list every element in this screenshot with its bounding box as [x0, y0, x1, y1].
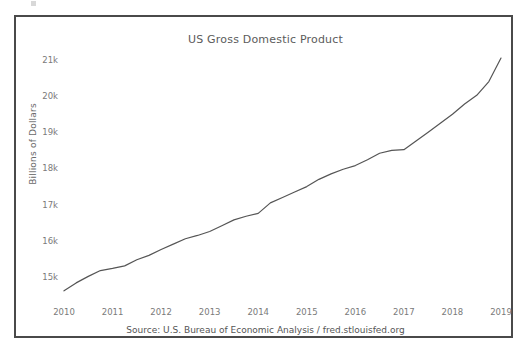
figure-root: US Gross Domestic Product Billions of Do…: [0, 0, 525, 353]
source-caption: Source: U.S. Bureau of Economic Analysis…: [16, 325, 515, 335]
chart-frame: US Gross Domestic Product Billions of Do…: [14, 15, 513, 338]
line-series-plot: [16, 17, 515, 340]
gdp-line-path: [64, 58, 501, 291]
crop-artifact: [31, 1, 36, 6]
